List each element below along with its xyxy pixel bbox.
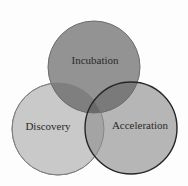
acceleration-label: Acceleration: [112, 119, 169, 131]
discovery-label: Discovery: [25, 120, 71, 132]
incubation-label: Incubation: [71, 54, 119, 66]
venn-diagram: Incubation Discovery Acceleration: [0, 0, 188, 186]
